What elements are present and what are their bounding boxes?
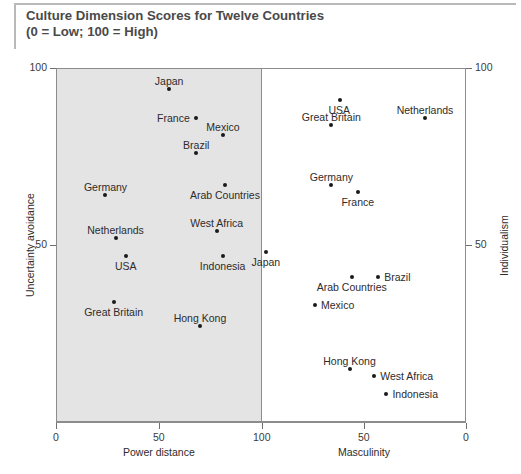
data-point-great-britain [112,300,116,304]
data-label-arab-countries: Arab Countries [190,190,260,201]
y-axis-title-individualism: Individualism [498,215,510,276]
data-point-usa [338,98,342,102]
data-point-france [356,190,360,194]
y-tick-left-50 [50,245,56,246]
header-top-rule [14,3,516,5]
y-axis-title-uncertainty-avoidance: Uncertainty avoidance [24,193,36,297]
data-point-west-africa [215,229,219,233]
data-point-arab-countries [350,275,354,279]
y-tick-left-100 [50,68,56,69]
data-label-germany: Germany [84,182,127,193]
data-label-netherlands: Netherlands [397,105,454,116]
data-label-west-africa: West Africa [380,371,433,382]
data-point-brazil [376,275,380,279]
x-tick-label-4: 0 [463,431,469,443]
x-tick-1 [159,423,160,429]
data-point-mexico [313,303,317,307]
x-tick-3 [364,423,365,429]
data-label-brazil: Brazil [384,272,410,283]
y-tick-right-100 [466,68,472,69]
data-point-mexico [221,133,225,137]
x-tick-label-0: 0 [53,431,59,443]
data-point-hong-kong [198,324,202,328]
y-tick-label-right-100: 100 [475,61,493,73]
data-label-indonesia: Indonesia [200,261,246,272]
x-tick-label-3: 50 [358,431,370,443]
data-label-mexico: Mexico [206,122,239,133]
data-point-netherlands [114,236,118,240]
data-label-netherlands: Netherlands [87,225,144,236]
scatter-plot: JapanFranceMexicoBrazilArab CountriesGer… [56,68,466,422]
data-label-west-africa: West Africa [190,218,243,229]
x-tick-0 [56,423,57,429]
data-point-hong-kong [348,367,352,371]
data-label-hong-kong: Hong Kong [323,356,376,367]
data-point-west-africa [372,374,376,378]
data-point-great-britain [329,123,333,127]
data-label-arab-countries: Arab Countries [317,282,387,293]
data-point-japan [167,87,171,91]
data-label-brazil: Brazil [183,140,209,151]
data-label-indonesia: Indonesia [392,389,438,400]
x-axis-baseline [56,422,466,423]
data-point-arab-countries [223,183,227,187]
data-label-mexico: Mexico [321,300,354,311]
y-tick-right-50 [466,245,472,246]
x-axis-title-masculinity: Masculinity [338,446,390,458]
data-label-germany: Germany [310,172,353,183]
data-label-france: France [341,197,374,208]
x-tick-4 [466,423,467,429]
x-tick-label-2: 100 [253,431,271,443]
data-point-indonesia [221,254,225,258]
data-point-usa [124,254,128,258]
data-label-great-britain: Great Britain [84,307,143,318]
chart-title: Culture Dimension Scores for Twelve Coun… [26,8,496,39]
y-tick-label-left-100: 100 [0,61,47,73]
header-left-rule [14,3,16,49]
data-label-usa: USA [115,261,137,272]
data-point-germany [103,193,107,197]
x-tick-label-1: 50 [153,431,165,443]
data-label-hong-kong: Hong Kong [174,313,227,324]
data-point-japan [264,250,268,254]
chart-title-line2: (0 = Low; 100 = High) [26,24,496,40]
data-point-brazil [194,151,198,155]
panel-masculinity-individualism [262,68,466,422]
data-point-netherlands [423,116,427,120]
data-label-great-britain: Great Britain [302,112,361,123]
x-tick-2 [262,423,263,429]
data-point-france [194,116,198,120]
chart-title-line1: Culture Dimension Scores for Twelve Coun… [26,8,496,24]
data-label-france: France [157,113,190,124]
x-axis-title-power-distance: Power distance [123,446,195,458]
data-label-japan: Japan [155,76,184,87]
data-point-indonesia [384,392,388,396]
data-label-japan: Japan [252,257,281,268]
y-tick-label-right-50: 50 [475,238,487,250]
data-point-germany [329,183,333,187]
